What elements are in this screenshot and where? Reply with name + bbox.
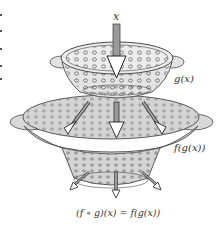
outer-function-label: f(g(x)) [173,142,205,153]
composition-diagram: x g(x) f(g(x)) (f ∘ g)(x) = f(g(x)) [0,0,223,225]
composition-label: (f ∘ g)(x) = f(g(x)) [76,207,161,218]
input-label: x [113,10,120,23]
output-arrows [70,172,161,198]
output-arrow-right [142,172,161,190]
inner-function-label: g(x) [174,73,194,84]
